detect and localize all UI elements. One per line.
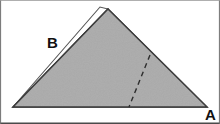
side-label-b: B	[47, 35, 58, 50]
figure-canvas: B A	[0, 0, 220, 124]
side-label-a: A	[205, 107, 216, 122]
triangle-diagram-svg	[0, 0, 220, 124]
